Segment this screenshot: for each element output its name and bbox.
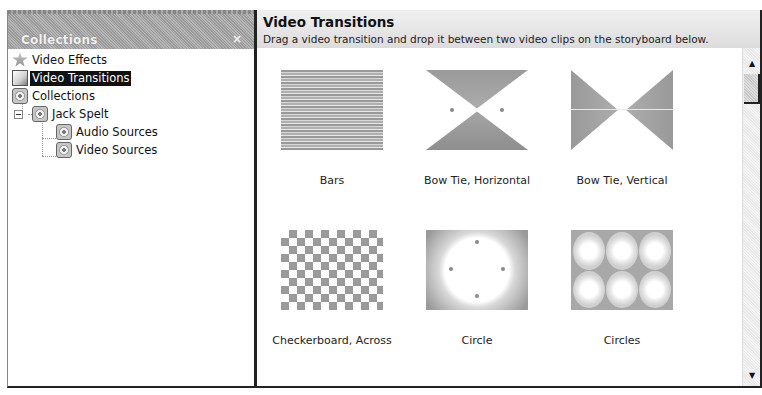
transition-label: Bow Tie, Vertical: [547, 174, 697, 187]
circle-shape: [639, 232, 671, 270]
transitions-pane: Video Transitions Drag a video transitio…: [254, 10, 762, 388]
collections-tree: Video Effects Video Transitions Collecti…: [8, 51, 254, 159]
bow-tie-vertical-thumbnail: [571, 70, 673, 150]
scroll-up-arrow-icon[interactable]: ▲: [744, 56, 760, 72]
tree-item-label: Video Transitions: [30, 71, 131, 86]
circle-shape: [606, 271, 638, 309]
circle-shape: [606, 232, 638, 270]
checkerboard-thumbnail: [281, 230, 383, 310]
transition-label: Bow Tie, Horizontal: [402, 174, 552, 187]
transition-label: Bars: [257, 174, 407, 187]
transition-bars[interactable]: Bars: [257, 70, 407, 187]
transition-circles[interactable]: Circles: [547, 230, 697, 347]
vertical-scrollbar[interactable]: ▲ ▼: [742, 48, 760, 386]
arrow-icon: [475, 294, 479, 298]
tree-item-label: Video Effects: [30, 53, 109, 68]
film-reel-icon: [56, 124, 72, 140]
circle-shape: [573, 271, 605, 309]
transition-checkerboard-across[interactable]: Checkerboard, Across: [257, 230, 407, 347]
arrow-icon: [449, 267, 453, 271]
tree-item-audio-sources[interactable]: Audio Sources: [8, 123, 254, 141]
collections-pane: Collections × Video Effects Video Transi…: [7, 10, 254, 388]
transitions-pane-header: Video Transitions Drag a video transitio…: [257, 10, 762, 48]
tree-item-label: Jack Spelt: [50, 107, 110, 122]
tree-item-video-sources[interactable]: Video Sources: [8, 141, 254, 159]
collections-pane-header: Collections ×: [8, 10, 254, 49]
circles-thumbnail: [571, 230, 673, 310]
arrow-icon: [450, 108, 454, 112]
film-reel-icon: [56, 142, 72, 158]
transition-label: Circles: [547, 334, 697, 347]
close-pane-button[interactable]: ×: [232, 32, 242, 46]
bars-thumbnail: [281, 70, 383, 150]
transition-circle[interactable]: Circle: [402, 230, 552, 347]
tree-item-label: Video Sources: [74, 143, 159, 158]
tree-item-label: Collections: [30, 89, 97, 104]
transition-icon: [12, 70, 28, 86]
transition-bow-tie-vertical[interactable]: Bow Tie, Vertical: [547, 70, 697, 187]
center-line: [571, 109, 673, 110]
page-title: Video Transitions: [263, 14, 394, 30]
tree-item-jack-spelt[interactable]: Jack Spelt: [8, 105, 254, 123]
arrow-icon: [475, 240, 479, 244]
bow-tie-horizontal-thumbnail: [426, 70, 528, 150]
circle-shape: [639, 271, 671, 309]
film-reel-icon: [32, 106, 48, 122]
transitions-list: Bars Bow Tie, Horizontal Bow Tie, Vertic…: [257, 48, 762, 386]
tree-item-label: Audio Sources: [74, 125, 160, 140]
star-icon: [12, 52, 28, 68]
tree-item-video-effects[interactable]: Video Effects: [8, 51, 254, 69]
transition-label: Circle: [402, 334, 552, 347]
film-reel-icon: [12, 88, 28, 104]
circle-thumbnail: [426, 230, 528, 310]
page-description: Drag a video transition and drop it betw…: [263, 33, 709, 45]
circle-shape: [573, 232, 605, 270]
collapse-toggle-icon[interactable]: [14, 110, 23, 119]
arrow-icon: [501, 267, 505, 271]
transition-bow-tie-horizontal[interactable]: Bow Tie, Horizontal: [402, 70, 552, 187]
tree-item-video-transitions[interactable]: Video Transitions: [8, 69, 254, 87]
scroll-down-arrow-icon[interactable]: ▼: [744, 368, 760, 384]
pane-grip[interactable]: [8, 10, 254, 14]
arrow-icon: [500, 108, 504, 112]
transition-label: Checkerboard, Across: [257, 334, 407, 347]
collections-pane-title: Collections: [21, 33, 98, 47]
tree-item-collections[interactable]: Collections: [8, 87, 254, 105]
scrollbar-thumb[interactable]: [744, 74, 760, 104]
